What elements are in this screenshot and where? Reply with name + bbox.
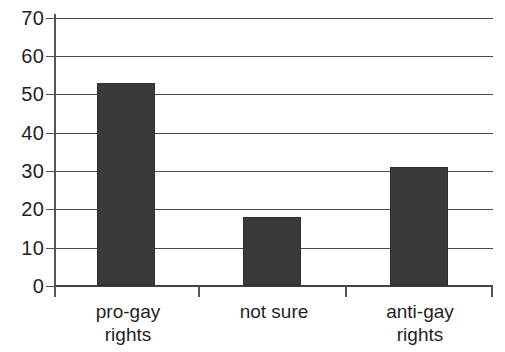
x-label-line: pro-gay — [55, 300, 201, 323]
x-label-pro-gay-rights: pro-gay rights — [55, 300, 201, 346]
bar-anti-gay-rights — [390, 167, 448, 286]
x-tick-mark — [198, 286, 200, 297]
x-tick-mark — [54, 286, 56, 297]
x-label-anti-gay-rights: anti-gay rights — [347, 300, 493, 346]
bar-chart: 70 60 50 40 30 20 10 0 — [0, 0, 505, 352]
bars-layer — [55, 18, 493, 286]
y-axis-labels: 70 60 50 40 30 20 10 0 — [0, 0, 44, 352]
y-tick-label: 50 — [4, 84, 44, 104]
x-axis-labels: pro-gay rights not sure anti-gay rights — [55, 300, 493, 352]
x-label-not-sure: not sure — [201, 300, 347, 323]
y-tick-label: 20 — [4, 199, 44, 219]
bar-pro-gay-rights — [97, 83, 155, 286]
y-tick-label: 60 — [4, 46, 44, 66]
x-label-line: rights — [347, 323, 493, 346]
y-tick-label: 40 — [4, 123, 44, 143]
y-tick-label: 10 — [4, 238, 44, 258]
x-label-line: not sure — [201, 300, 347, 323]
y-tick-label: 30 — [4, 161, 44, 181]
y-tick-label: 70 — [4, 8, 44, 28]
x-label-line: rights — [55, 323, 201, 346]
x-label-line: anti-gay — [347, 300, 493, 323]
x-axis-ticks — [0, 286, 505, 298]
bar-not-sure — [243, 217, 301, 286]
x-tick-mark — [491, 286, 493, 297]
x-tick-mark — [345, 286, 347, 297]
